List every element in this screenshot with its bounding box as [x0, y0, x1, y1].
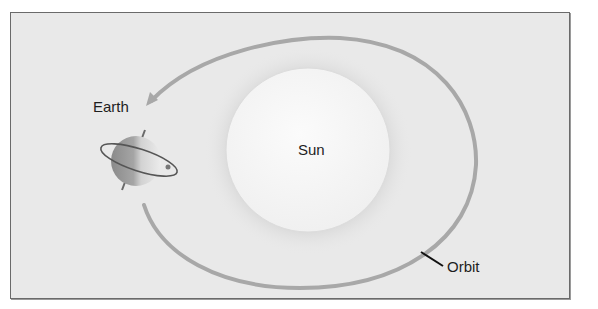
orbit-leader-line — [421, 252, 443, 266]
earth-label: Earth — [93, 98, 129, 115]
orbit-label: Orbit — [447, 258, 480, 275]
earth-icon — [98, 130, 181, 190]
sun-label: Sun — [298, 141, 325, 158]
